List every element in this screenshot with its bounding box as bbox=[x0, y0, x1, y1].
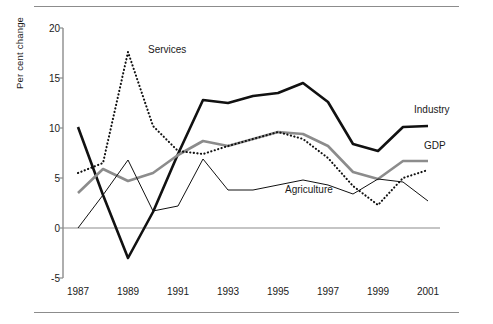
series-label-gdp: GDP bbox=[424, 140, 446, 151]
chart-page: Per cent change 20151050-5 1987198919911… bbox=[0, 0, 493, 324]
series-label-services: Services bbox=[148, 44, 186, 55]
series-label-industry: Industry bbox=[414, 104, 450, 115]
series-line-industry bbox=[78, 83, 428, 258]
series-line-agriculture bbox=[78, 159, 428, 228]
series-label-agriculture: Agriculture bbox=[285, 184, 333, 195]
series-line-gdp bbox=[78, 132, 428, 193]
series-line-services bbox=[78, 52, 428, 205]
chart-plot-area bbox=[0, 0, 493, 324]
